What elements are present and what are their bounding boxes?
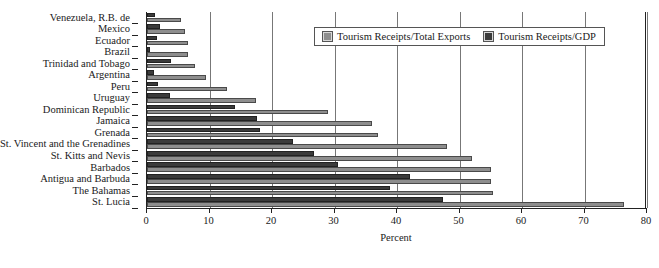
- x-tick-label-10: 10: [203, 215, 214, 226]
- bar-exports: [147, 98, 256, 103]
- gridline-80: [647, 12, 648, 208]
- category-label: Barbados: [90, 162, 130, 174]
- bar-exports: [147, 202, 624, 207]
- bar-exports: [147, 87, 227, 92]
- category-tick: [132, 184, 138, 185]
- bar-gdp: [147, 128, 260, 133]
- bar-gdp: [147, 197, 443, 202]
- category-label: Jamaica: [96, 115, 130, 127]
- bar-group: [147, 150, 646, 162]
- bar-exports: [147, 179, 491, 184]
- category-tick: [132, 173, 138, 174]
- category-label: St. Vincent and the Grenadines: [0, 138, 130, 150]
- bar-group: [147, 173, 646, 185]
- bar-gdp: [147, 162, 338, 167]
- x-tick-label-60: 60: [516, 215, 527, 226]
- category-label: Antigua and Barbuda: [40, 173, 130, 185]
- bar-group: [147, 81, 646, 93]
- category-tick: [132, 196, 138, 197]
- category-tick: [132, 161, 138, 162]
- bar-group: [147, 139, 646, 151]
- tourism-receipts-bar-chart: Venezuela, R.B. deMexicoEcuadorBrazilTri…: [0, 0, 659, 268]
- category-tick: [132, 127, 138, 128]
- legend-label-exports: Tourism Receipts/Total Exports: [337, 31, 470, 42]
- bar-exports: [147, 29, 185, 34]
- x-tick-40: [396, 208, 397, 213]
- x-tick-label-40: 40: [391, 215, 402, 226]
- x-tick-label-70: 70: [578, 215, 589, 226]
- category-tick: [132, 46, 138, 47]
- category-tick: [132, 69, 138, 70]
- x-tick-label-30: 30: [328, 215, 339, 226]
- bar-gdp: [147, 36, 157, 41]
- category-axis: Venezuela, R.B. deMexicoEcuadorBrazilTri…: [0, 12, 138, 208]
- category-tick: [132, 81, 138, 82]
- bar-gdp: [147, 13, 155, 18]
- bar-group: [147, 116, 646, 128]
- bar-group: [147, 185, 646, 197]
- x-tick-50: [459, 208, 460, 213]
- bar-group: [147, 12, 646, 24]
- x-tick-label-20: 20: [266, 215, 277, 226]
- x-tick-20: [271, 208, 272, 213]
- category-tick: [132, 208, 138, 209]
- bar-group: [147, 127, 646, 139]
- bar-gdp: [147, 93, 170, 98]
- bar-exports: [147, 18, 181, 23]
- bar-group: [147, 70, 646, 82]
- category-label: Brazil: [104, 46, 130, 58]
- x-tick-0: [146, 208, 147, 213]
- legend-swatch-gdp-icon: [484, 32, 493, 41]
- category-tick: [132, 58, 138, 59]
- category-label: Uruguay: [93, 92, 130, 104]
- bar-gdp: [147, 151, 314, 156]
- bar-gdp: [147, 82, 158, 87]
- category-label: St. Lucia: [92, 196, 130, 208]
- category-tick: [132, 35, 138, 36]
- x-tick-10: [209, 208, 210, 213]
- x-tick-label-80: 80: [641, 215, 652, 226]
- bar-group: [147, 162, 646, 174]
- x-tick-label-0: 0: [143, 215, 148, 226]
- category-label: The Bahamas: [73, 185, 130, 197]
- bar-gdp: [147, 174, 410, 179]
- category-tick: [132, 104, 138, 105]
- x-tick-70: [584, 208, 585, 213]
- legend-item-gdp: Tourism Receipts/GDP: [484, 31, 596, 42]
- category-label: Ecuador: [95, 35, 130, 47]
- legend-item-exports: Tourism Receipts/Total Exports: [323, 31, 470, 42]
- bar-exports: [147, 133, 378, 138]
- x-tick-label-50: 50: [453, 215, 464, 226]
- category-label: Argentina: [88, 69, 130, 81]
- bar-exports: [147, 144, 447, 149]
- bar-gdp: [147, 139, 293, 144]
- bar-exports: [147, 41, 188, 46]
- bar-gdp: [147, 116, 257, 121]
- bar-exports: [147, 191, 493, 196]
- category-label: Mexico: [98, 23, 130, 35]
- legend-label-gdp: Tourism Receipts/GDP: [498, 31, 596, 42]
- x-tick-60: [521, 208, 522, 213]
- category-label: St. Kitts and Nevis: [51, 150, 130, 162]
- bar-gdp: [147, 59, 171, 64]
- bar-group: [147, 58, 646, 70]
- category-tick: [132, 23, 138, 24]
- category-label: Trinidad and Tobago: [43, 58, 130, 70]
- chart-legend: Tourism Receipts/Total Exports Tourism R…: [314, 27, 605, 46]
- bar-gdp: [147, 70, 154, 75]
- category-tick: [132, 150, 138, 151]
- bar-group: [147, 93, 646, 105]
- category-label: Dominican Republic: [43, 104, 130, 116]
- category-tick: [132, 138, 138, 139]
- bar-gdp: [147, 24, 160, 29]
- legend-swatch-exports-icon: [323, 32, 332, 41]
- category-tick: [132, 115, 138, 116]
- bar-group: [147, 104, 646, 116]
- bar-exports: [147, 121, 372, 126]
- bar-exports: [147, 167, 491, 172]
- x-tick-80: [646, 208, 647, 213]
- bar-exports: [147, 156, 472, 161]
- category-label: Grenada: [94, 127, 130, 139]
- bar-exports: [147, 110, 328, 115]
- x-tick-30: [334, 208, 335, 213]
